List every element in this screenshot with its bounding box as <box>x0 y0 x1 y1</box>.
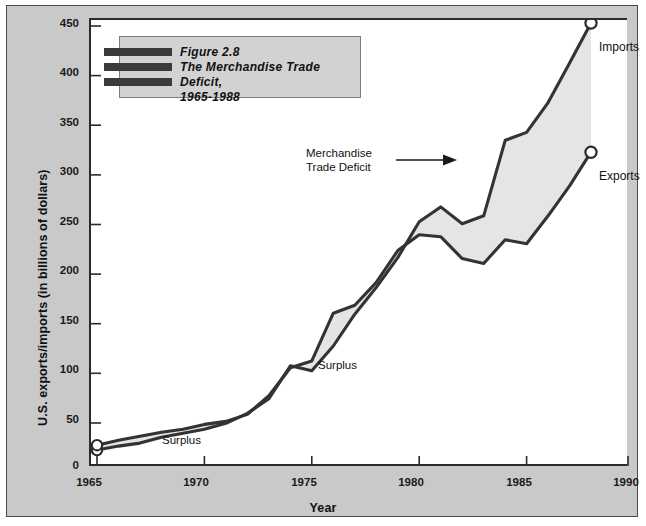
y-axis-ticks <box>91 26 101 423</box>
x-tick-label-1990: 1990 <box>603 476 646 488</box>
figure-title-line-2: The Merchandise Trade Deficit, <box>180 60 360 90</box>
figure-title-line-1: Figure 2.8 <box>180 45 360 60</box>
title-bar-1 <box>104 48 172 56</box>
y-tick-label-450: 450 <box>45 17 79 29</box>
x-tick-label-1980: 1980 <box>388 476 434 488</box>
y-tick-label-350: 350 <box>45 116 79 128</box>
x-tick-label-1975: 1975 <box>281 476 327 488</box>
surplus-label-early: Surplus <box>162 434 201 446</box>
x-axis-title: Year <box>310 501 337 515</box>
deficit-annotation-line2: Trade Deficit <box>306 160 372 174</box>
y-tick-label-300: 300 <box>45 165 79 177</box>
marker-exports-end <box>585 147 596 158</box>
y-tick-label-250: 250 <box>45 215 79 227</box>
x-tick-label-1985: 1985 <box>496 476 542 488</box>
deficit-annotation-arrow <box>396 155 457 166</box>
y-axis-title: U.S. exports/imports (in billions of dol… <box>36 169 50 426</box>
title-bar-2 <box>104 63 172 71</box>
y-tick-label-150: 150 <box>45 314 79 326</box>
y-tick-label-400: 400 <box>45 66 79 78</box>
y-tick-label-100: 100 <box>45 363 79 375</box>
deficit-annotation-label: Merchandise Trade Deficit <box>306 146 372 174</box>
marker-exports-start <box>92 440 102 450</box>
surplus-label-mid: Surplus <box>318 359 357 371</box>
exports-series-label: Exports <box>599 169 640 183</box>
y-tick-label-200: 200 <box>45 264 79 276</box>
title-bar-3 <box>104 78 172 86</box>
x-tick-label-1965: 1965 <box>66 476 112 488</box>
y-axis-title-wrapper: U.S. exports/imports (in billions of dol… <box>33 86 55 426</box>
title-decoration-bars <box>104 48 172 90</box>
figure-container: U.S. exports/imports (in billions of dol… <box>6 5 638 517</box>
deficit-annotation-line1: Merchandise <box>306 146 372 160</box>
y-tick-label-50: 50 <box>45 413 79 425</box>
x-tick-label-1970: 1970 <box>173 476 219 488</box>
figure-title-text: Figure 2.8 The Merchandise Trade Deficit… <box>180 45 360 105</box>
x-axis-title-wrapper: Year <box>7 498 639 516</box>
figure-title-line-3: 1965-1988 <box>180 90 360 105</box>
y-tick-label-0: 0 <box>45 459 79 471</box>
x-axis-ticks <box>97 456 628 466</box>
figure-title-box: Figure 2.8 The Merchandise Trade Deficit… <box>119 36 361 98</box>
marker-imports-end <box>585 20 596 29</box>
imports-series-label: Imports <box>599 40 639 54</box>
